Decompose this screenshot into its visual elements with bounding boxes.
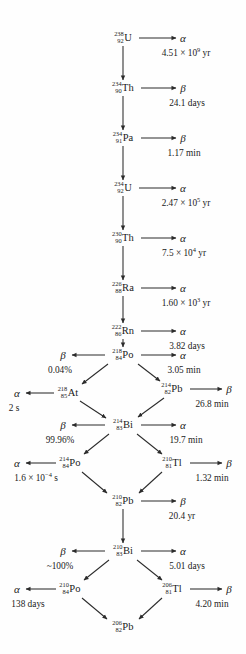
decay-mode-symbol: β: [60, 350, 65, 361]
decay-arrow: [80, 401, 106, 418]
decay-mode-symbol: β: [226, 384, 231, 395]
atomic-number: 92: [117, 38, 123, 45]
element-symbol: Pa: [123, 133, 134, 144]
decay-mode-symbol: β: [180, 83, 185, 94]
atomic-number: 91: [116, 138, 122, 145]
element-symbol: At: [68, 388, 79, 399]
atomic-number: 82: [116, 501, 122, 508]
decay-arrow: [138, 398, 164, 417]
half-life-value: 19.7 min: [169, 435, 202, 445]
nuclide-prescript: 23090: [112, 231, 122, 245]
half-life-label: 19.7 min: [169, 436, 202, 445]
half-life-label: 99.96%: [46, 436, 75, 445]
element-symbol: Tl: [172, 458, 182, 469]
atomic-number: 81: [165, 589, 171, 596]
nuclide-pa234: 23491Pa: [113, 131, 134, 145]
atomic-number: 84: [116, 355, 122, 362]
element-symbol: Tl: [172, 584, 182, 595]
decay-mode-symbol: α: [180, 546, 186, 557]
half-life-label: 2 s: [9, 404, 20, 413]
half-life-value: 1.6 × 10: [14, 473, 45, 483]
atomic-number: 82: [165, 389, 171, 396]
nuclide-th230: 23090Th: [112, 231, 134, 245]
nuclide-prescript: 22286: [112, 324, 122, 338]
decay-mode-symbol: α: [180, 420, 186, 431]
element-symbol: U: [124, 183, 132, 194]
decay-arrow: [84, 434, 109, 454]
element-symbol: U: [124, 33, 132, 44]
decay-arrow: [139, 472, 162, 493]
half-life-value: 24.1 days: [169, 98, 205, 108]
half-life-value: 5.01 days: [169, 561, 205, 571]
atomic-number: 90: [115, 88, 121, 95]
half-life-unit: s: [52, 473, 58, 483]
decay-mode-symbol: β: [60, 420, 65, 431]
nuclide-prescript: 20682: [112, 620, 122, 634]
decay-mode-symbol: α: [14, 584, 20, 595]
nuclide-po214: 21484Po: [59, 456, 80, 470]
half-life-unit: yr: [200, 48, 210, 58]
half-life-label: 0.04%: [48, 366, 72, 375]
nuclide-po218: 21884Po: [112, 348, 133, 362]
nuclide-prescript: 21482: [161, 382, 171, 396]
decay-arrow: [82, 364, 108, 384]
decay-mode-symbol: β: [180, 133, 185, 144]
half-life-unit: yr: [200, 198, 210, 208]
nuclide-prescript: 21483: [113, 418, 123, 432]
nuclide-po210: 21084Po: [59, 582, 80, 596]
decay-mode-symbol: α: [180, 283, 186, 294]
element-symbol: Po: [69, 458, 80, 469]
half-life-label: 1.6 × 10−4 s: [14, 474, 58, 483]
element-symbol: Pb: [122, 496, 133, 507]
decay-arrow: [137, 560, 162, 580]
nuclide-prescript: 20681: [162, 582, 172, 596]
element-symbol: Rn: [122, 326, 134, 337]
nuclide-pb210: 21082Pb: [112, 494, 133, 508]
nuclide-tl206: 20681Tl: [162, 582, 182, 596]
nuclide-prescript: 21084: [59, 582, 69, 596]
nuclide-rn222: 22286Rn: [112, 324, 134, 338]
decay-mode-symbol: α: [14, 458, 20, 469]
nuclide-th234: 23490Th: [112, 81, 134, 95]
half-life-label: 20.4 yr: [169, 512, 195, 521]
decay-arrow: [82, 598, 107, 619]
nuclide-prescript: 21484: [59, 456, 69, 470]
nuclide-prescript: 23491: [113, 131, 123, 145]
element-symbol: Po: [122, 350, 133, 361]
half-life-unit: yr: [196, 248, 206, 258]
decay-mode-symbol: α: [180, 326, 186, 337]
nuclide-prescript: 21884: [112, 348, 122, 362]
half-life-label: 5.01 days: [169, 562, 205, 571]
nuclide-pb206: 20682Pb: [112, 620, 133, 634]
atomic-number: 83: [116, 551, 122, 558]
half-life-value: 7.5 × 10: [162, 248, 193, 258]
element-symbol: Bi: [123, 420, 133, 431]
nuclide-at218: 21885At: [58, 386, 79, 400]
half-life-label: 1.32 min: [195, 474, 228, 483]
atomic-number: 84: [63, 463, 69, 470]
element-symbol: Ra: [122, 283, 134, 294]
nuclide-prescript: 23892: [114, 31, 124, 45]
half-life-unit: yr: [200, 298, 210, 308]
half-life-label: 138 days: [11, 600, 44, 609]
decay-mode-symbol: α: [14, 388, 20, 399]
half-life-label: 24.1 days: [169, 99, 205, 108]
atomic-number: 90: [115, 238, 121, 245]
nuclide-tl210: 21081Tl: [162, 456, 182, 470]
half-life-value: 1.60 × 10: [162, 298, 197, 308]
element-symbol: Bi: [123, 546, 133, 557]
half-life-label: 1.60 × 103 yr: [162, 299, 211, 308]
decay-arrow: [139, 598, 162, 619]
decay-mode-symbol: α: [180, 233, 186, 244]
nuclide-bi214: 21483Bi: [113, 418, 133, 432]
nuclide-prescript: 21885: [58, 386, 68, 400]
half-life-value: 1.32 min: [195, 473, 228, 483]
decay-arrow: [82, 472, 107, 493]
half-life-value: 20.4 yr: [169, 511, 195, 521]
decay-mode-symbol: β: [226, 458, 231, 469]
half-life-label: 26.8 min: [195, 400, 228, 409]
element-symbol: Po: [69, 584, 80, 595]
half-life-label: 7.5 × 104 yr: [162, 249, 206, 258]
decay-mode-symbol: α: [180, 350, 186, 361]
decay-arrow: [137, 434, 162, 454]
